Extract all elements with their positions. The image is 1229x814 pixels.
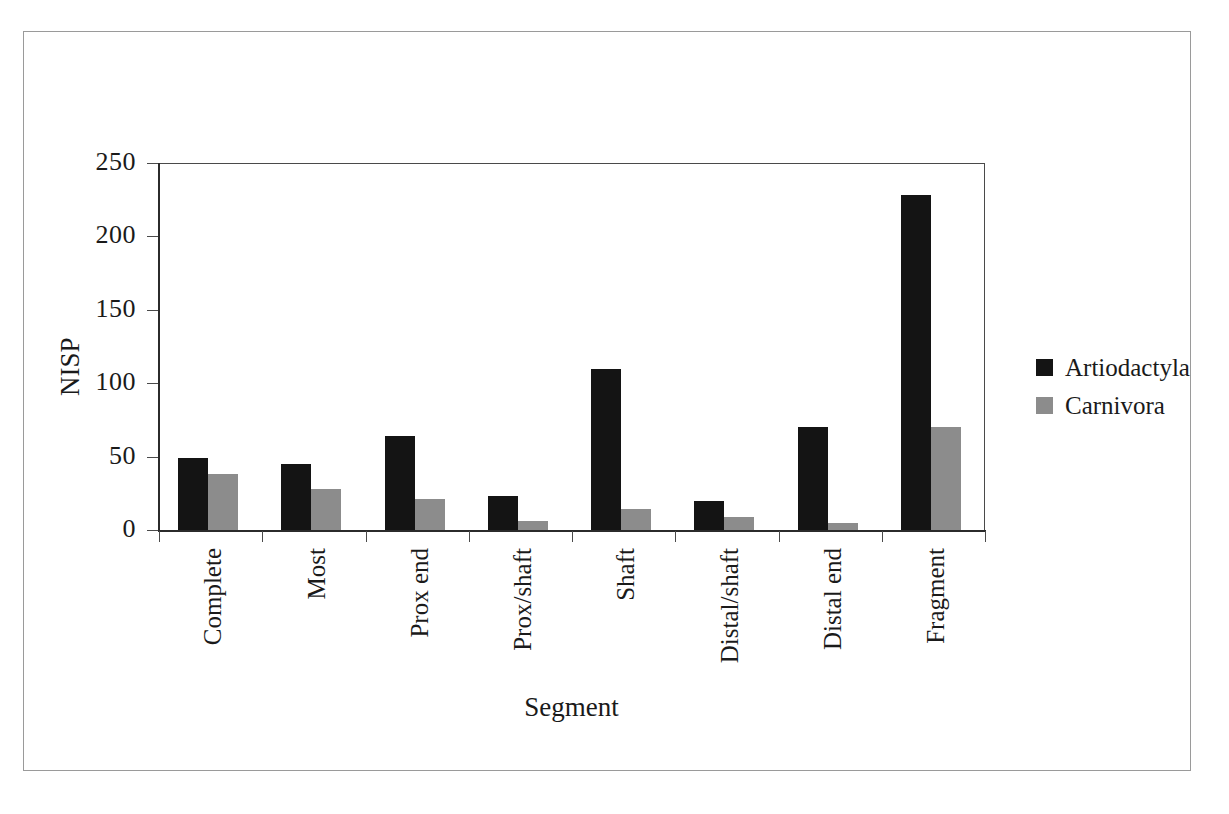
bar-carnivora-shaft (621, 509, 651, 530)
x-axis-tick (985, 531, 986, 542)
y-axis-tick (147, 530, 158, 531)
black-square-swatch (1036, 359, 1053, 376)
x-axis-category-label: Prox end (407, 548, 432, 638)
bar-artiodactyla-distal-shaft (694, 501, 724, 530)
y-axis-title: NISP (57, 337, 84, 396)
x-axis-category-label: Prox/shaft (510, 548, 535, 651)
legend-label: Artiodactyla (1065, 355, 1190, 380)
legend: ArtiodactylaCarnivora (1036, 348, 1216, 424)
bar-artiodactyla-distal-end (798, 427, 828, 530)
y-axis-tick (147, 163, 158, 164)
bar-artiodactyla-prox-shaft (488, 496, 518, 530)
bar-group (572, 163, 675, 530)
legend-item: Carnivora (1036, 386, 1216, 424)
bar-group (675, 163, 778, 530)
x-axis-tick (469, 531, 470, 542)
bar-artiodactyla-fragment (901, 195, 931, 530)
legend-label: Carnivora (1065, 393, 1165, 418)
bar-artiodactyla-most (281, 464, 311, 530)
y-axis-tick (147, 383, 158, 384)
bar-carnivora-fragment (931, 427, 961, 530)
y-axis-tick-label: 200 (70, 222, 136, 248)
x-axis-tick (675, 531, 676, 542)
y-axis-tick (147, 457, 158, 458)
bar-artiodactyla-shaft (591, 369, 621, 530)
x-axis-tick (882, 531, 883, 542)
bar-group (469, 163, 572, 530)
x-axis-category-label: Distal/shaft (717, 548, 742, 663)
bar-carnivora-prox-end (415, 499, 445, 530)
bar-carnivora-most (311, 489, 341, 530)
x-axis-tick (779, 531, 780, 542)
x-axis-tick (366, 531, 367, 542)
y-axis-tick-label: 150 (70, 296, 136, 322)
gray-square-swatch (1036, 397, 1053, 414)
x-axis-category-label: Fragment (923, 548, 948, 644)
x-axis-title: Segment (158, 694, 985, 721)
y-axis-tick-label: 250 (70, 149, 136, 175)
bar-group (779, 163, 882, 530)
bar-group (262, 163, 365, 530)
legend-item: Artiodactyla (1036, 348, 1216, 386)
x-axis-category-label: Most (304, 548, 329, 599)
bar-group (159, 163, 262, 530)
bar-carnivora-distal-shaft (724, 517, 754, 530)
bar-group (882, 163, 985, 530)
y-axis-tick (147, 236, 158, 237)
bar-carnivora-distal-end (828, 523, 858, 530)
bar-carnivora-prox-shaft (518, 521, 548, 530)
x-axis-tick (262, 531, 263, 542)
y-axis-tick-label: 50 (70, 443, 136, 469)
figure-container: 050100150200250 CompleteMostProx endProx… (0, 0, 1229, 814)
bar-group (366, 163, 469, 530)
bar-carnivora-complete (208, 474, 238, 530)
bar-artiodactyla-prox-end (385, 436, 415, 530)
bars-layer (159, 163, 985, 530)
x-axis-tick (572, 531, 573, 542)
x-axis-category-label: Distal end (820, 548, 845, 650)
x-axis-category-label: Shaft (613, 548, 638, 601)
x-axis-category-label: Complete (200, 548, 225, 645)
y-axis-tick (147, 310, 158, 311)
bar-artiodactyla-complete (178, 458, 208, 530)
x-axis-tick (159, 531, 160, 542)
y-axis-tick-label: 0 (70, 516, 136, 542)
